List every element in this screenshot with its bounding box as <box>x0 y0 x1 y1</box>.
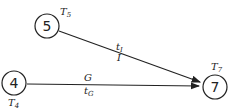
edge-5-7: tI I <box>59 31 200 82</box>
edge-4-7-label-bottom: tG <box>84 85 94 98</box>
svg-text:5: 5 <box>43 18 52 34</box>
edge-4-7: G tG <box>27 72 199 98</box>
network-diagram: tI I G tG 5 T5 7 T7 4 T4 <box>0 0 244 111</box>
node-4-time-label: T4 <box>8 97 19 110</box>
node-4: 4 T4 <box>2 71 26 110</box>
node-7-time-label: T7 <box>211 61 223 74</box>
node-7: 7 T7 <box>203 61 227 99</box>
svg-text:7: 7 <box>211 79 220 95</box>
node-5-time-label: T5 <box>60 6 72 19</box>
edge-4-7-label-top: G <box>84 72 92 83</box>
svg-text:4: 4 <box>10 75 19 91</box>
